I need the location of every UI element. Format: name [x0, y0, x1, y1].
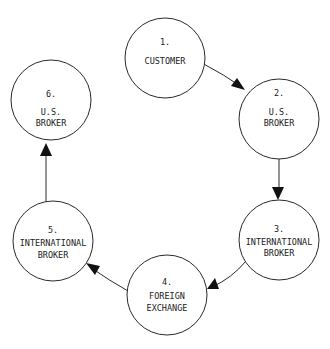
node-label-line2: BROKER: [38, 250, 70, 260]
node-label-line1: U.S.: [41, 107, 61, 117]
arrowhead-icon: [272, 187, 284, 200]
node-label-line1: FOREIGN: [149, 291, 185, 301]
node-6-us-broker: 6. U.S. BROKER: [11, 60, 91, 140]
node-2-us-broker: 2. U.S. BROKER: [239, 79, 319, 159]
node-1-customer: 1. CUSTOMER: [125, 18, 205, 98]
arrowhead-icon: [231, 78, 245, 90]
edge-3-to-4: [212, 261, 246, 287]
node-label-line1: U.S.: [269, 107, 289, 117]
node-label-line1: CUSTOMER: [145, 56, 187, 66]
arrowhead-icon: [40, 143, 52, 156]
node-label-line1: INTERNATIONAL: [246, 237, 313, 247]
node-label-line2: BROKER: [264, 248, 296, 258]
node-number: 3.: [274, 224, 284, 234]
arrowhead-icon: [207, 278, 219, 289]
node-label-line2: EXCHANGE: [147, 303, 188, 313]
node-4-foreign-exchange: 4. FOREIGN EXCHANGE: [127, 255, 207, 335]
node-number: 6.: [46, 89, 56, 99]
arrowhead-icon: [86, 263, 100, 275]
node-label-line2: BROKER: [36, 118, 68, 128]
node-number: 4.: [162, 277, 172, 287]
node-number: 2.: [274, 88, 284, 98]
order-flow-diagram: 1. CUSTOMER 2. U.S. BROKER 3. INTERNATIO…: [0, 0, 330, 349]
node-label-line1: INTERNATIONAL: [20, 238, 87, 248]
node-3-international-broker: 3. INTERNATIONAL BROKER: [239, 200, 319, 280]
node-label-line2: BROKER: [264, 118, 296, 128]
node-number: 1.: [160, 37, 170, 47]
node-5-international-broker: 5. INTERNATIONAL BROKER: [13, 201, 93, 281]
node-number: 5.: [48, 225, 58, 235]
